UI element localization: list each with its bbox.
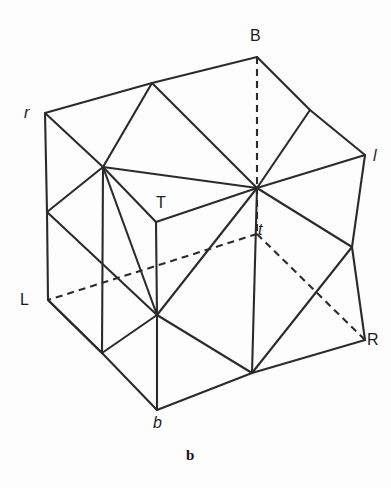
dashed-tnode-L: [48, 234, 257, 300]
edge-l-rightmid: [352, 155, 365, 247]
label-b: b: [153, 415, 162, 431]
edge-b-bottomleft: [102, 353, 157, 410]
edge-hubcenter-topright2: [257, 155, 365, 188]
edge-hubupperleft-hubcenter: [103, 167, 257, 188]
edge-r-hubupperleft: [45, 113, 103, 167]
edge-R-diamondbottom: [252, 340, 365, 373]
figure-caption: b: [186, 448, 194, 463]
label-t: t: [258, 222, 262, 238]
edge-Tcorner-midleft: [156, 222, 157, 315]
label-R: R: [367, 332, 379, 348]
edge-midleft-diamondbottom: [157, 315, 252, 373]
edge-hubupperleft-midleft: [103, 167, 157, 315]
edge-hubupperleft-bottomleft: [102, 167, 103, 353]
edge-leftmid-r: [45, 113, 47, 212]
label-L: L: [20, 292, 29, 308]
edge-L-b-lower: [48, 300, 102, 353]
edge-B-topright: [257, 57, 310, 110]
polyhedron-diagram: [0, 0, 391, 488]
label-r: r: [24, 105, 29, 121]
edge-topright-l: [310, 110, 365, 155]
edge-hubcenter-midleft: [157, 188, 257, 315]
figure-container: BrlTtLRb b: [0, 0, 391, 488]
label-T: T: [156, 195, 166, 211]
edge-hubupperleft-leftmid: [47, 167, 103, 212]
edge-Tcorner-hubcenter: [156, 188, 257, 222]
edge-midleft-bottomleft: [102, 315, 157, 353]
solid-edge-group: [45, 57, 365, 410]
edge-hubupperleft-Tcorner: [103, 167, 156, 222]
edge-hubcenter-rightmid: [257, 188, 352, 247]
edge-L-leftmid: [47, 212, 48, 300]
label-l: l: [373, 148, 377, 164]
label-B: B: [250, 28, 261, 44]
edge-diamondbottom-b: [157, 373, 252, 410]
edge-rightmid-R: [352, 247, 365, 340]
edge-topmid-hubcenter: [152, 83, 257, 188]
edge-diamondbottom-rightmid: [252, 247, 352, 373]
edge-B-hubcenter-visible: [257, 110, 310, 188]
edge-topmid-B: [152, 57, 257, 83]
